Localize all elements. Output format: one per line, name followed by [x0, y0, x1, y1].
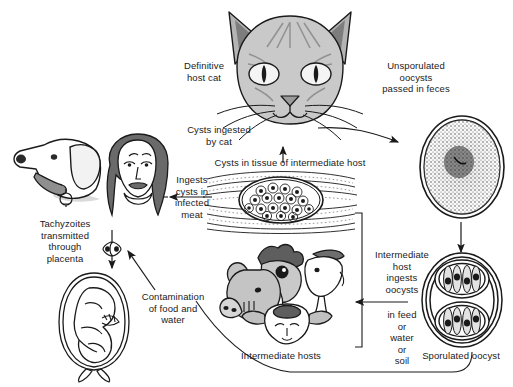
dog-head-figure [8, 133, 104, 207]
unsporulated-oocyst-figure [418, 113, 506, 221]
label-unsporulated-oocysts: Unsporulated oocysts passed in feces [346, 60, 486, 95]
intermediate-hosts-figure [218, 240, 348, 345]
label-tachyzoites-placenta: Tachyzoites transmitted through placenta [26, 218, 104, 264]
fetus-in-placenta-figure [55, 270, 133, 382]
label-contamination-food-water: Contamination of food and water [128, 291, 218, 326]
label-intermediate-hosts: Intermediate hosts [216, 350, 346, 362]
label-intermediate-host-ingests-oocysts: Intermediate host ingests oocysts [362, 249, 442, 295]
label-ingests-cysts-in-infected-meat: Ingests cysts in infected meat [163, 174, 221, 220]
life-cycle-diagram: Definitive host cat Unsporulated oocysts… [0, 0, 513, 387]
label-sporulated-oocyst: Sporulated oocyst [409, 350, 513, 362]
label-cysts-in-tissue: Cysts in tissue of intermediate host [180, 157, 400, 169]
tissue-cyst-figure [205, 165, 357, 235]
label-definitive-host-cat: Definitive host cat [152, 60, 256, 83]
label-cysts-ingested-by-cat: Cysts ingested by cat [164, 124, 274, 147]
